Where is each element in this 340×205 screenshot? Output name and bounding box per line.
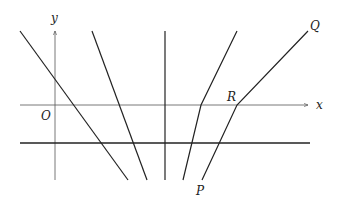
point-label-p: P bbox=[195, 184, 205, 198]
point-label-q: Q bbox=[310, 19, 320, 33]
diagram-canvas: y x O Q R P bbox=[0, 0, 340, 205]
origin-label: O bbox=[41, 109, 51, 123]
point-label-r: R bbox=[226, 90, 236, 104]
line-2 bbox=[92, 31, 147, 180]
x-axis-label: x bbox=[316, 98, 323, 112]
broken-line-PRQ bbox=[202, 31, 308, 180]
broken-line-1 bbox=[183, 31, 237, 180]
line-1 bbox=[20, 31, 128, 180]
y-axis-label: y bbox=[50, 11, 58, 25]
